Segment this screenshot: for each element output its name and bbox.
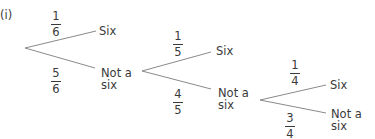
denominator: 5	[174, 104, 181, 116]
denominator: 6	[52, 26, 59, 38]
numerator: 4	[174, 88, 181, 100]
outcome-line-2: six	[331, 120, 362, 132]
outcome-3-lower: Not a six	[331, 108, 362, 132]
numerator: 1	[291, 59, 298, 71]
outcome-2-lower: Not a six	[218, 87, 249, 111]
numerator: 1	[174, 30, 181, 42]
outcome-line-2: six	[218, 99, 249, 111]
outcome-line-2: six	[101, 79, 132, 91]
numerator: 5	[52, 67, 59, 79]
branch-1-lower	[25, 48, 95, 68]
probability-3-upper: 1 4	[290, 59, 300, 87]
part-label: (i)	[0, 9, 12, 21]
outcome-3-upper: Six	[330, 79, 347, 91]
probability-2-upper: 1 5	[173, 30, 183, 58]
probability-1-upper: 1 6	[51, 10, 61, 38]
denominator: 4	[286, 128, 293, 139]
denominator: 6	[52, 83, 59, 95]
outcome-1-lower: Not a six	[101, 67, 132, 91]
outcome-2-upper: Six	[216, 45, 233, 57]
probability-1-lower: 5 6	[51, 67, 61, 95]
denominator: 5	[174, 46, 181, 58]
probability-3-lower: 3 4	[285, 112, 295, 139]
denominator: 4	[291, 75, 298, 87]
probability-2-lower: 4 5	[173, 88, 183, 116]
numerator: 3	[286, 112, 293, 124]
outcome-1-upper: Six	[99, 25, 116, 37]
numerator: 1	[52, 10, 59, 22]
